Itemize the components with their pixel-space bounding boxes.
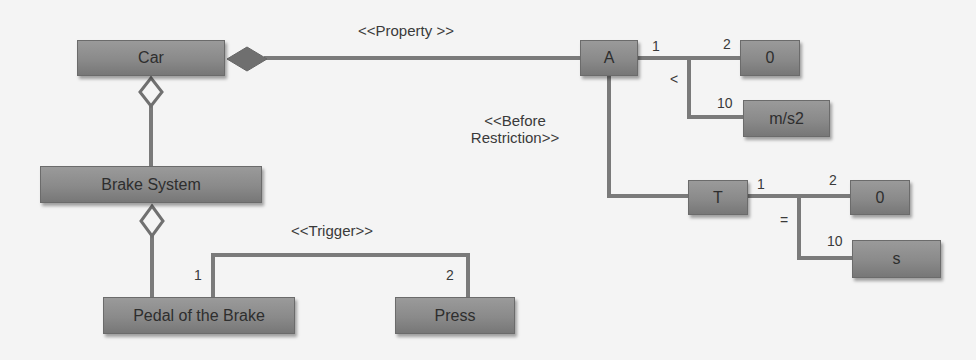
multiplicity-pedal-side: 1 — [194, 267, 202, 283]
press-class-box[interactable]: Press — [395, 297, 515, 334]
property-stereotype-label: <<Property >> — [358, 22, 454, 39]
before-restriction-stereotype-label: <<Before Restriction>> — [460, 112, 570, 147]
t-attribute-box[interactable]: T — [688, 180, 748, 215]
brake-system-class-box[interactable]: Brake System — [40, 166, 262, 203]
uml-diagram: Car Brake System Pedal of the Brake Pres… — [0, 0, 976, 360]
a-unit-label: m/s2 — [769, 110, 804, 128]
multiplicity-a-side: 1 — [652, 38, 660, 54]
composition-diamond-icon — [227, 47, 267, 71]
before-restriction-line1: <<Before — [460, 112, 570, 129]
a-unit-line — [689, 58, 743, 117]
t-min-value-box[interactable]: 0 — [850, 180, 910, 215]
pedal-label: Pedal of the Brake — [133, 307, 265, 325]
t-min-label: 0 — [876, 189, 885, 207]
aggregation-diamond-icon — [140, 78, 162, 106]
multiplicity-t-value-side: 2 — [829, 172, 837, 188]
car-label: Car — [138, 49, 164, 67]
a-operator-label: < — [670, 71, 678, 87]
t-unit-label: s — [893, 250, 901, 268]
multiplicity-a-value-side: 2 — [723, 36, 731, 52]
trigger-association-line — [213, 255, 468, 297]
multiplicity-a-unit-side: 10 — [717, 95, 733, 111]
press-label: Press — [435, 307, 476, 325]
brake-system-label: Brake System — [101, 176, 201, 194]
t-label: T — [713, 189, 723, 207]
pedal-class-box[interactable]: Pedal of the Brake — [103, 297, 295, 334]
before-restriction-line2: Restriction>> — [460, 129, 570, 146]
multiplicity-press-side: 2 — [446, 267, 454, 283]
t-unit-box[interactable]: s — [852, 240, 941, 278]
multiplicity-t-side: 1 — [757, 176, 765, 192]
a-attribute-box[interactable]: A — [580, 40, 638, 76]
multiplicity-t-unit-side: 10 — [827, 233, 843, 249]
a-min-value-box[interactable]: 0 — [740, 40, 800, 76]
a-unit-box[interactable]: m/s2 — [743, 100, 830, 137]
a-min-label: 0 — [766, 49, 775, 67]
before-restriction-line — [609, 76, 688, 196]
t-operator-label: = — [780, 212, 788, 228]
t-unit-line — [799, 196, 852, 258]
trigger-stereotype-label: <<Trigger>> — [291, 222, 373, 239]
car-class-box[interactable]: Car — [77, 40, 225, 76]
aggregation-diamond-icon — [141, 206, 163, 236]
a-label: A — [604, 49, 615, 67]
